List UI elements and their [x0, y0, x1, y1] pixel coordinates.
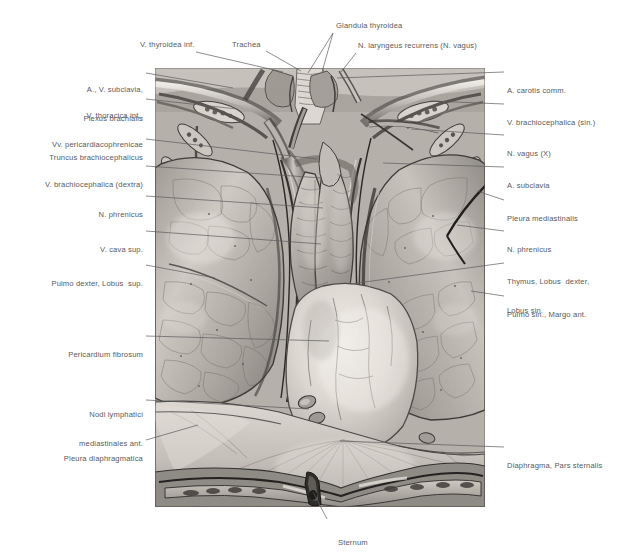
label-line: Pulmo sin., Margo ant.: [507, 310, 586, 320]
label-pericardium-fibrosum: Pericardium fibrosum: [0, 331, 143, 379]
label-line: Thymus, Lobus dexter,: [507, 277, 589, 287]
anatomy-illustration: [155, 68, 485, 507]
label-pleura-diaphragmatica: Pleura diaphragmatica: [0, 435, 143, 483]
label-trachea: Trachea: [232, 40, 261, 50]
label-diaphragma-pars-sternalis: Diaphragma, Pars sternalis: [507, 442, 603, 490]
anatomical-plate: V. thyroidea inf. Trachea Glandula thyro…: [0, 0, 636, 560]
leader-glandula-thyroidea-a: [308, 33, 333, 73]
label-sternum: Sternum: [338, 519, 368, 560]
label-line: Pericardium fibrosum: [0, 350, 143, 360]
label-line: V. brachiocephalica (dextra): [0, 180, 143, 190]
label-line: Pleura diaphragmatica: [0, 454, 143, 464]
label-line: V. cava sup.: [0, 245, 143, 255]
label-n-laryngeus-recurrens: N. laryngeus recurrens (N. vagus): [358, 41, 477, 51]
label-line: Diaphragma, Pars sternalis: [507, 461, 603, 471]
label-line: A. carotis comm.: [507, 86, 566, 96]
label-line: V. brachiocephalica (sin.): [507, 118, 595, 128]
label-line: A. subclavia: [507, 181, 550, 191]
anatomy-illustration-svg: [155, 68, 485, 507]
label-line: N. phrenicus: [0, 210, 143, 220]
label-line: Nodi lymphatici: [0, 410, 143, 420]
label-v-thyroidea-inf: V. thyroidea inf.: [140, 40, 195, 50]
label-line: N. vagus (X): [507, 149, 551, 159]
label-pulmo-sinister-margo-ant: Pulmo sin., Margo ant.: [507, 291, 586, 339]
label-line: N. phrenicus: [507, 245, 551, 255]
label-line: Sternum: [338, 538, 368, 548]
label-line: Pulmo dexter, Lobus sup.: [0, 279, 143, 289]
label-pulmo-dexter-lobus-sup: Pulmo dexter, Lobus sup.: [0, 260, 143, 308]
label-line: V. thoracica int.,: [0, 111, 143, 121]
label-glandula-thyroidea: Glandula thyroidea: [336, 21, 402, 31]
leader-glandula-thyroidea-b: [322, 33, 333, 72]
label-line: Pleura mediastinalis: [507, 214, 578, 224]
